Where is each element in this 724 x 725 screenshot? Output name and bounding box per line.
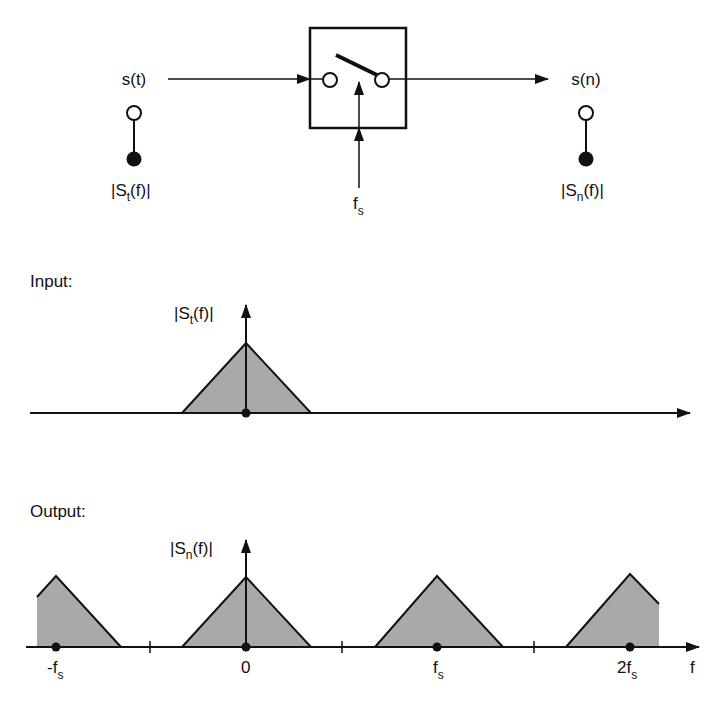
replica-minus-fs bbox=[37, 576, 121, 647]
input-signal-label: s(t) bbox=[122, 70, 147, 89]
center-dot bbox=[242, 643, 251, 652]
output-axis-label: |Sn(f)| bbox=[170, 539, 213, 562]
block-diagram: s(t) fs s(n) |St(f)| |Sn(f)| bbox=[111, 28, 604, 218]
time-domain-node-icon bbox=[579, 106, 593, 120]
tick-label-2fs: 2fs bbox=[617, 658, 637, 682]
time-domain-node-icon bbox=[127, 106, 141, 120]
switch-output-terminal bbox=[375, 73, 389, 87]
output-spectrum-plot: Output: |Sn(f)| -fs 0 fs 2fs f bbox=[26, 502, 699, 682]
center-dot bbox=[626, 643, 635, 652]
center-dot bbox=[433, 643, 442, 652]
switch-input-terminal bbox=[323, 73, 337, 87]
frequency-domain-node-icon bbox=[579, 152, 594, 167]
replica-fs bbox=[375, 576, 503, 647]
switch-blade bbox=[336, 55, 377, 75]
center-dot bbox=[52, 643, 61, 652]
input-spectrum-label: |St(f)| bbox=[111, 181, 151, 204]
replica-2fs bbox=[566, 574, 659, 647]
tick-label-minus-fs: -fs bbox=[47, 658, 63, 682]
origin-dot bbox=[242, 409, 251, 418]
input-plot-title: Input: bbox=[30, 272, 73, 291]
output-spectrum-label: |Sn(f)| bbox=[561, 181, 604, 204]
tick-label-0: 0 bbox=[241, 658, 250, 677]
fs-label: fs bbox=[353, 194, 364, 218]
sampling-diagram: s(t) fs s(n) |St(f)| |Sn(f)| Input: |St(… bbox=[0, 0, 724, 725]
output-signal-label: s(n) bbox=[571, 70, 600, 89]
input-spectrum-plot: Input: |St(f)| bbox=[30, 272, 690, 418]
input-axis-label: |St(f)| bbox=[174, 304, 214, 327]
frequency-domain-node-icon bbox=[127, 152, 142, 167]
tick-label-fs: fs bbox=[433, 658, 444, 682]
frequency-axis-label: f bbox=[690, 658, 695, 677]
output-plot-title: Output: bbox=[30, 502, 86, 521]
